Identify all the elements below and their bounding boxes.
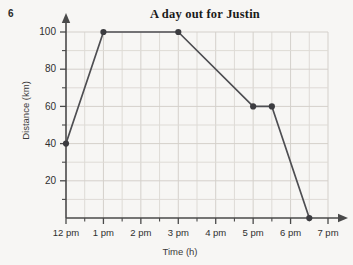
data-point-marker: 12 pm, 40 km — [63, 141, 69, 147]
x-axis-arrow-icon — [338, 214, 348, 222]
x-axis-tick-label: 2 pm — [130, 227, 151, 238]
tick-layer — [60, 32, 328, 224]
data-point-marker: 1 pm, 100 km — [100, 29, 106, 35]
x-axis-tick-label: 6 pm — [280, 227, 301, 238]
x-axis-tick-label: 5 pm — [243, 227, 264, 238]
y-axis-tick-label: 40 — [45, 138, 57, 149]
y-axis-tick-label: 60 — [45, 101, 57, 112]
chart-canvas: 12 pm1 pm2 pm3 pm4 pm5 pm6 pm7 pm2040608… — [0, 0, 353, 265]
y-axis-arrow-icon — [62, 13, 70, 23]
data-point-marker: 6:30 pm, 0 km — [306, 215, 312, 221]
grid-layer — [66, 32, 328, 218]
x-axis-tick-label: 3 pm — [168, 227, 189, 238]
x-axis-tick-label: 7 pm — [317, 227, 338, 238]
x-axis-tick-label: 4 pm — [205, 227, 226, 238]
y-axis-tick-label: 80 — [45, 63, 57, 74]
tick-label-layer: 12 pm1 pm2 pm3 pm4 pm5 pm6 pm7 pm2040608… — [39, 26, 338, 238]
y-axis-tick-label: 20 — [45, 175, 57, 186]
chart-figure: 6 A day out for Justin Distance (km) Tim… — [0, 0, 353, 265]
axis-layer — [62, 13, 348, 222]
data-point-marker: 5 pm, 60 km — [250, 103, 256, 109]
x-axis-tick-label: 12 pm — [53, 227, 79, 238]
y-axis-tick-label: 100 — [39, 26, 56, 37]
x-axis-tick-label: 1 pm — [93, 227, 114, 238]
data-point-marker: 3 pm, 100 km — [175, 29, 181, 35]
data-point-marker: 5:30 pm, 60 km — [269, 103, 275, 109]
